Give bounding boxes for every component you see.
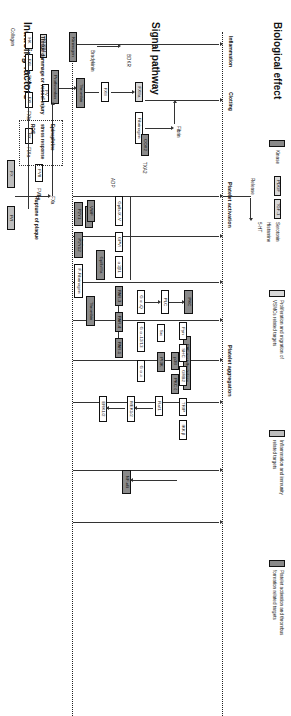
node-fxiiia: FXⅢa [135,82,143,102]
riser-aggregation-3 [73,470,219,471]
node-hk: HK [25,32,33,49]
effect-inflammation: Inflammation [227,36,233,67]
arrow-fxiii-to-fxiiia [132,90,135,94]
effect-clotting: Clotting [227,92,233,111]
arrow-ikk-nfkb [130,478,133,482]
node-par4: PAR-4 [115,312,123,332]
line-par3-par4 [118,306,119,312]
node-fxiii: FXⅢ [101,82,109,102]
line-fxiii-to-fxiiia [111,92,133,93]
node-ikk-beta: IKK β [179,420,187,440]
node-kininogen: Kininogen [69,32,77,62]
riser-activation-1 [73,196,219,197]
arrow-fxa-to-prothrombin [51,102,55,105]
line-plc-pkc [169,302,183,303]
divider-inducing-factors [72,32,73,716]
label-adp: ADP [110,178,115,187]
arrow-bradykinin-bdkr [118,44,121,48]
section-title-biological-effect: Biological effect [272,22,283,99]
label-collagen-intrinsic: Collagen [10,28,15,46]
node-gpvi: GPⅥ [115,232,123,252]
legend-swatch-inflammation [269,430,285,437]
inducer-stress-response: stress response [40,124,45,159]
release-label: Release [250,178,255,195]
node-p2y1: P2Y1 [74,202,83,226]
arrow-aggregation-2 [220,400,223,404]
legend-label-inflammation-line1: Inflammation and immunity [278,440,284,495]
node-fxi: FXⅠ [25,92,33,108]
node-nfkb: NF-κB [122,470,131,494]
effect-platelet-activation: Platelet activation [227,182,233,228]
label-txa2: TXA2 [142,162,147,174]
arrow-aggregation-4 [220,520,223,524]
legend-swatch-platelet [269,560,285,567]
legend-label-platelet-line2: formation related targets [271,570,277,620]
line-par4-par1 [118,332,119,338]
divider-biological-effect [222,32,223,716]
node-fyn: Fyn [179,322,187,340]
node-shc: SHC [179,344,187,362]
node-pdgf: PDGF [274,176,281,196]
inducer-rupture: Ruptune of plaque [33,196,39,240]
arrow-aggregation-1 [220,358,223,362]
release-arrow-line [250,198,251,218]
figure-frame: Biological effect Signal pathway Inducin… [0,0,291,716]
node-fxii: FXⅡ [25,54,33,71]
node-thrombin-inducer: Thrombin [86,296,95,326]
node-raf1: Raf1 [155,396,163,416]
riser-activation-3 [73,282,219,283]
node-fvii: FⅦ [7,206,15,230]
node-src: Src [157,324,165,342]
label-bdkr: BDKR [126,54,131,67]
node-g-alpha-q: G α -Q [137,290,145,314]
inducer-epinephrine: Epinephrine [50,124,55,151]
release-arrow-head [249,218,253,221]
line-bradykinin-bdkr [97,46,119,47]
arrow-activation-2 [220,234,223,238]
node-grb2: GRB2 [179,366,187,386]
legend-swatch-kinase [269,140,285,147]
section-title-signal-pathway: Signal pathway [150,22,161,95]
effect-platelet-aggregation: Platelet aggregation [227,345,233,397]
node-prothrombin: Prothrombin [51,70,59,104]
legend-label-inflammation-line2: related targets [271,440,277,469]
arrow-gaq-plc [158,300,161,304]
node-trip: TRIP [179,398,187,416]
legend-label-vsmc-line1: Proliferation and migration of [278,300,284,359]
line-thrombin-to-fxiii [85,92,99,93]
legend-label-platelet-line1: Platelet activation and thrombus [278,570,284,635]
node-alpha2beta1: α 2β1 [115,256,123,278]
node-cox2: COX2 [141,134,149,156]
release-serotonin: Serotonin [275,222,280,242]
release-5ht: 5-HT [257,222,262,232]
node-pkc: PKC [184,290,193,314]
node-thrombin: Thrombin [76,78,85,108]
node-par1: PAR-1 [115,338,123,358]
line-gaq-plc [145,302,159,303]
legend-swatch-vsmc [269,290,285,297]
release-histamine: Histamine [266,222,271,242]
node-tgf: TGF-1 [274,199,281,219]
riser-clotting [145,100,219,101]
legend-label-kinase: Kinase [274,150,280,164]
line-fibrinogen-to-fibrin [145,128,171,129]
riser-inflammation [73,44,219,45]
arrow-clotting [220,98,223,102]
node-fx: FⅩ [7,160,15,188]
line-fibrin-to-clotting [174,102,175,124]
node-g-alpha-i: G α -i [137,360,145,382]
pathway-canvas: Biological effect Signal pathway Inducin… [0,0,291,716]
arrow-inflammation [220,42,223,46]
node-pkc-zeta: PKC ζ [171,374,179,394]
line-prothrombin-to-thrombin [59,88,75,89]
riser-aggregation-4 [73,522,219,523]
arrow-fibrin-to-clotting [173,100,177,103]
line-receptor-bus [130,196,131,280]
line-mek-erk [107,408,125,409]
node-p2y12: P2Y12 [74,232,83,258]
legend-label-vsmc-line2: VSMCs related targets [271,300,277,346]
riser-activation-2 [73,236,219,237]
label-bradykinin: Bradykinin [90,50,95,71]
riser-aggregation-1 [73,360,219,361]
line-raf-mek [135,408,153,409]
